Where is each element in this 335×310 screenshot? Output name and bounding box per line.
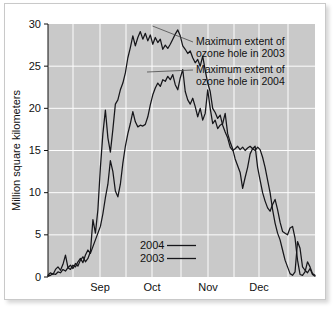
y-tick-label-25: 25 [29, 60, 41, 72]
y-axis-title: Million square kilometers [10, 89, 22, 211]
legend-label-2004: 2004 [140, 239, 164, 251]
annotation-2004-line1: Maximum extent of [196, 63, 285, 75]
x-tick-labels: Sep Oct Nov Dec [90, 281, 269, 293]
annotation-2003-line1: Maximum extent of [196, 35, 285, 47]
x-tick-label-nov: Nov [198, 281, 218, 293]
annotation-2004-line2: ozone hole in 2004 [196, 75, 285, 87]
annotation-max-2003: Maximum extent of ozone hole in 2003 [196, 35, 285, 59]
y-tick-labels: 30 25 20 15 10 5 0 [29, 18, 41, 283]
y-tick-label-5: 5 [35, 228, 41, 240]
y-tick-label-15: 15 [29, 144, 41, 156]
y-tick-label-30: 30 [29, 18, 41, 30]
annotation-max-2004: Maximum extent of ozone hole in 2004 [196, 63, 285, 87]
y-tick-label-0: 0 [35, 271, 41, 283]
figure-root: 30 25 20 15 10 5 0 Million square kilome… [0, 0, 335, 310]
x-tick-label-dec: Dec [249, 281, 269, 293]
ozone-hole-line-chart: 30 25 20 15 10 5 0 Million square kilome… [0, 0, 335, 310]
x-tick-label-oct: Oct [143, 281, 160, 293]
y-tick-label-10: 10 [29, 186, 41, 198]
annotation-2003-line2: ozone hole in 2003 [196, 47, 285, 59]
y-tick-label-20: 20 [29, 102, 41, 114]
x-tick-label-sep: Sep [90, 281, 110, 293]
y-axis [44, 24, 48, 277]
legend-label-2003: 2003 [140, 252, 164, 264]
